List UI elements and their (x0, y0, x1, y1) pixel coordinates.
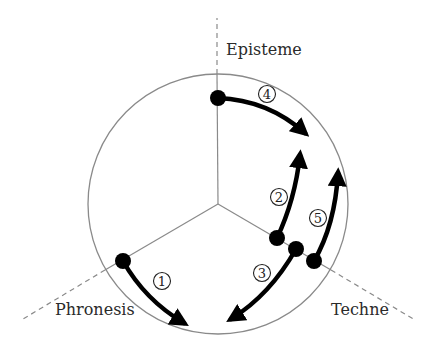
step-badge-2: 2 (271, 189, 288, 206)
axis-label-episteme: Episteme (226, 40, 302, 59)
arrow-step-3 (231, 249, 296, 319)
step-number-1: 1 (158, 274, 166, 289)
start-dot-step-5 (306, 253, 322, 269)
step-badge-4: 4 (259, 86, 276, 103)
axis-label-techne: Techne (331, 300, 389, 319)
step-badge-1: 1 (154, 273, 171, 290)
step-badge-5: 5 (310, 210, 327, 227)
step-number-4: 4 (263, 87, 271, 102)
start-dot-step-4 (210, 90, 226, 106)
start-dot-step-2 (269, 230, 285, 246)
start-dot-step-3 (288, 241, 304, 257)
step-badge-3: 3 (254, 265, 271, 282)
step-number-5: 5 (314, 211, 322, 226)
knowledge-triad-diagram: Episteme Phronesis Techne 1 2 3 4 5 (0, 0, 431, 352)
axis-label-phronesis: Phronesis (55, 300, 135, 319)
step-number-3: 3 (258, 266, 266, 281)
start-dot-step-1 (115, 253, 131, 269)
step-number-2: 2 (275, 190, 283, 205)
arrow-step-4 (218, 98, 305, 133)
